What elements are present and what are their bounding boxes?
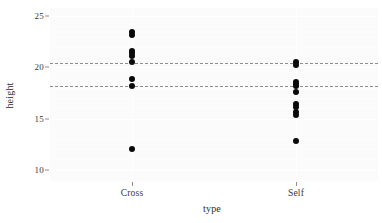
x-tick-mark: [296, 182, 297, 186]
gridline-minor: [50, 129, 378, 130]
data-point: [293, 112, 299, 118]
data-point: [129, 146, 135, 152]
data-point: [293, 83, 299, 89]
x-axis-title: type: [46, 203, 378, 214]
strip-plot-figure: height type 10152025 CrossSelf: [0, 0, 382, 223]
gridline-minor: [50, 159, 378, 160]
gridline-minor: [50, 88, 378, 89]
data-point: [293, 62, 299, 68]
gridline-major: [50, 119, 378, 120]
gridline-minor: [50, 108, 378, 109]
y-tick-label: 15: [14, 114, 44, 124]
gridline-minor: [50, 180, 378, 181]
reference-line: [50, 63, 378, 64]
data-point: [129, 53, 135, 59]
reference-line: [50, 86, 378, 87]
y-tick-mark: [45, 169, 49, 170]
y-tick-label: 25: [14, 11, 44, 21]
y-tick-mark: [45, 118, 49, 119]
gridline-minor: [50, 78, 378, 79]
x-tick-label-self: Self: [256, 188, 336, 198]
gridline-major: [50, 16, 378, 17]
gridline-minor: [50, 139, 378, 140]
data-point: [129, 83, 135, 89]
gridline-minor: [50, 149, 378, 150]
data-point: [293, 138, 299, 144]
y-tick-mark: [45, 67, 49, 68]
x-tick-mark: [132, 182, 133, 186]
gridline-major: [50, 170, 378, 171]
gridline-minor: [50, 47, 378, 48]
gridline-major: [50, 67, 378, 68]
y-axis-title-label: height: [4, 82, 15, 108]
data-point: [129, 32, 135, 38]
data-point: [293, 89, 299, 95]
gridline-minor: [50, 26, 378, 27]
y-tick-label: 10: [14, 165, 44, 175]
data-point: [129, 59, 135, 65]
gridline-minor: [50, 98, 378, 99]
data-point: [129, 76, 135, 82]
gridline-minor: [50, 57, 378, 58]
gridline-minor: [50, 37, 378, 38]
gridline-vertical: [296, 8, 297, 182]
plot-panel: [50, 8, 378, 182]
x-tick-label-cross: Cross: [92, 188, 172, 198]
y-axis-title: height: [2, 0, 16, 190]
y-tick-mark: [45, 16, 49, 17]
y-tick-label: 20: [14, 62, 44, 72]
